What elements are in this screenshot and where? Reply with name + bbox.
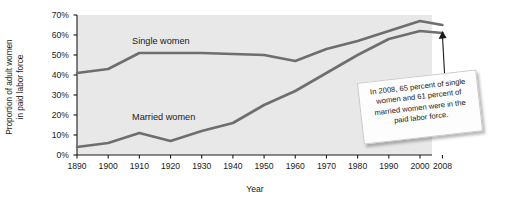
series-label-single-women: Single women <box>132 36 190 46</box>
labor-force-participation-chart: Proportion of adult women in paid labor … <box>0 0 506 203</box>
callout-text: In 2008, 65 percent of single women and … <box>365 76 475 129</box>
series-label-married-women: Married women <box>132 112 195 122</box>
